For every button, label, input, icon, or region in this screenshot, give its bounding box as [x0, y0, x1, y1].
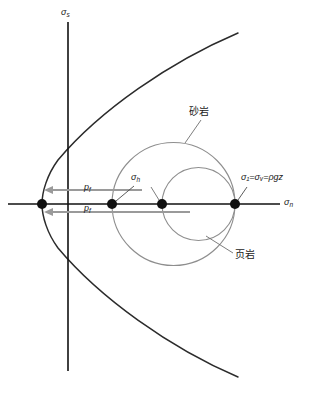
pore-pressure-label-lower: pf [84, 204, 91, 213]
x-axis-label: σn [284, 198, 293, 207]
pore-pressure-arrow-lower [44, 208, 190, 216]
figure-canvas: σs σn σh σ₁=σᵥ=ρgz pf pf 砂岩 页岩 [0, 0, 316, 396]
shale-center-leader-line [151, 187, 159, 200]
sigma-v-relation-label: σ₁=σᵥ=ρgz [241, 173, 283, 182]
sigma-h-leader-line [116, 186, 134, 201]
pore-pressure-arrow-upper [44, 186, 142, 194]
shale-leader-line [206, 236, 233, 253]
point-shale-min [157, 199, 167, 209]
point-failure-envelope-vertex [37, 199, 47, 209]
pore-pressure-label-upper: pf [84, 183, 91, 192]
sandstone-label: 砂岩 [189, 107, 209, 117]
y-axis-label: σs [61, 8, 70, 17]
shale-label: 页岩 [235, 250, 255, 260]
sigma-h-label: σh [131, 173, 140, 182]
sandstone-leader-line [185, 120, 201, 143]
mohr-circle-diagram-svg [0, 0, 316, 396]
sigma1-leader-line [238, 187, 247, 200]
point-sigma-v [230, 199, 240, 209]
point-sigma-h [107, 199, 117, 209]
failure-envelope-curve [42, 33, 238, 377]
